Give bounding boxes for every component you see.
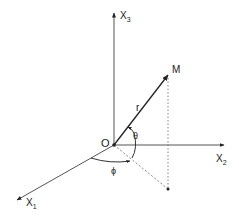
spherical-coordinate-diagram: X3 X2 X1 O M r θ ϕ [0, 0, 239, 221]
origin-point [112, 143, 116, 147]
point-m-label: M [172, 64, 180, 75]
theta-label: θ [133, 131, 138, 141]
phi-label: ϕ [111, 166, 116, 176]
projection-line [114, 145, 168, 189]
x2-axis-label: X2 [216, 153, 227, 166]
x1-axis [17, 145, 114, 200]
phi-arc [91, 158, 130, 162]
origin-label: O [101, 137, 110, 149]
x1-axis-label: X1 [26, 197, 37, 210]
radius-vector [114, 75, 168, 145]
x3-axis-label: X3 [120, 10, 131, 23]
projection-foot-point [167, 188, 170, 191]
